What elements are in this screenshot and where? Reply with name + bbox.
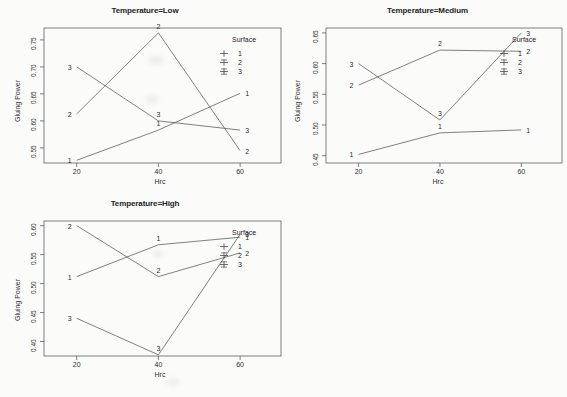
data-point-label: 1 [438, 122, 442, 129]
data-point-label: 3 [438, 110, 442, 117]
data-point-label: 2 [526, 48, 530, 55]
y-tick-label: 0.60 [312, 61, 319, 74]
legend-item-label: 3 [518, 68, 522, 75]
panel-temperature-medium: Temperature=Medium Hrc Gluing Power 0.45… [288, 0, 567, 197]
x-tick-label: 40 [146, 361, 170, 368]
data-point-label: 1 [245, 90, 249, 97]
y-tick-label: 0.60 [30, 118, 37, 131]
data-point-label: 2 [350, 82, 354, 89]
x-tick-label: 60 [228, 361, 252, 368]
y-tick-label: 0.40 [30, 339, 37, 352]
data-point-label: 2 [68, 110, 72, 117]
y-tick-label: 0.55 [30, 252, 37, 265]
data-point-label: 2 [245, 147, 249, 154]
y-axis-title-medium: Gluing Power [294, 80, 301, 122]
y-tick-label: 0.55 [312, 92, 319, 105]
legend-item-label: 2 [238, 59, 242, 66]
data-point-label: 2 [156, 266, 160, 273]
x-axis-title-low: Hrc [40, 178, 280, 185]
data-point-label: 1 [68, 157, 72, 164]
y-tick-label: 0.45 [312, 153, 319, 166]
data-point-label: 3 [245, 127, 249, 134]
legend-item-label: 1 [518, 50, 522, 57]
panel-temperature-low: Temperature=Low Hrc Gluing Power 0.550.6… [0, 0, 290, 197]
y-tick-label: 0.60 [30, 223, 37, 236]
y-tick-label: 0.55 [30, 145, 37, 158]
y-axis-title-low: Gluing Power [14, 80, 21, 122]
legend-item-label: 2 [518, 59, 522, 66]
data-point-label: 1 [526, 126, 530, 133]
x-tick-label: 20 [65, 168, 89, 175]
data-point-label: 2 [68, 222, 72, 229]
legend-title: Surface [232, 36, 256, 43]
data-point-label: 2 [156, 22, 160, 29]
data-point-label: 1 [68, 273, 72, 280]
x-tick-label: 40 [146, 168, 170, 175]
x-tick-label: 40 [428, 168, 452, 175]
data-point-label: 2 [245, 249, 249, 256]
data-point-label: 1 [350, 151, 354, 158]
data-point-label: 3 [156, 344, 160, 351]
y-tick-label: 0.50 [30, 281, 37, 294]
data-point-label: 1 [156, 120, 160, 127]
x-axis-title-high: Hrc [40, 371, 280, 378]
legend-item-label: 3 [238, 68, 242, 75]
panel-temperature-high: Temperature=High Hrc Gluing Power 0.400.… [0, 193, 290, 397]
y-tick-label: 0.50 [312, 122, 319, 135]
legend-item-label: 2 [238, 252, 242, 259]
data-point-label: 3 [156, 110, 160, 117]
y-tick-label: 0.70 [30, 64, 37, 77]
x-tick-label: 60 [509, 168, 533, 175]
data-point-label: 3 [68, 315, 72, 322]
data-point-label: 3 [68, 63, 72, 70]
legend-item-label: 1 [238, 50, 242, 57]
legend-item-label: 1 [238, 243, 242, 250]
x-tick-label: 60 [228, 168, 252, 175]
y-axis-title-high: Gluing Power [14, 279, 21, 321]
legend-title: Surface [232, 229, 256, 236]
y-tick-label: 0.75 [30, 37, 37, 50]
y-tick-label: 0.65 [312, 30, 319, 43]
x-tick-label: 20 [65, 361, 89, 368]
data-point-label: 1 [156, 234, 160, 241]
legend-item-label: 3 [238, 261, 242, 268]
y-tick-label: 0.45 [30, 310, 37, 323]
y-tick-label: 0.65 [30, 91, 37, 104]
legend-title: Surface [512, 36, 536, 43]
x-axis-title-medium: Hrc [318, 178, 558, 185]
interaction-plot-figure: Temperature=Low Hrc Gluing Power 0.550.6… [0, 0, 567, 397]
data-point-label: 3 [350, 60, 354, 67]
data-point-label: 2 [438, 40, 442, 47]
x-tick-label: 20 [347, 168, 371, 175]
